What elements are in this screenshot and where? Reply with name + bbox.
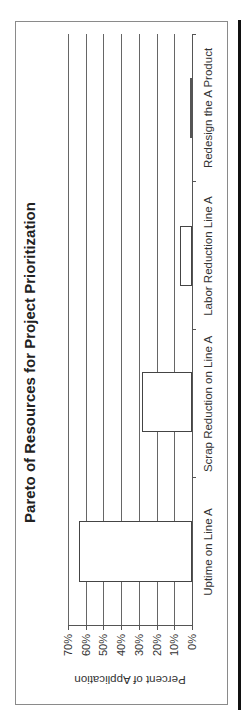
plot-area: 0% 10% 20% 30% 40% 50% 60% 70% Uptime on…: [68, 34, 192, 626]
x-category-label: Redesign the A Product: [202, 34, 214, 182]
bar-scrap-reduction-line-a: [142, 372, 192, 432]
bar-uptime-line-a: [79, 521, 192, 582]
x-category-label: Scrap Reduction on Line A: [202, 330, 214, 478]
gridline-70: [68, 34, 69, 626]
bar-redesign-a-product: [190, 78, 192, 138]
y-tick: [139, 626, 140, 630]
y-tick: [121, 626, 122, 630]
y-tick-label: 20%: [151, 634, 163, 674]
y-tick-label: 70%: [62, 634, 74, 674]
page-edge-rule: [238, 20, 241, 710]
rotated-chart-canvas: Pareto of Resources for Project Prioriti…: [0, 0, 244, 714]
x-category-tick: [192, 477, 196, 478]
x-category-tick: [192, 34, 196, 35]
y-tick: [103, 626, 104, 630]
y-tick-label: 50%: [97, 634, 109, 674]
y-axis-title: Percent of Application: [74, 674, 185, 686]
y-tick-label: 10%: [168, 634, 180, 674]
x-category-tick: [192, 329, 196, 330]
y-tick: [174, 626, 175, 630]
x-category-label: Labor Reduction Line A: [202, 182, 214, 330]
y-tick-label: 0%: [186, 634, 198, 674]
y-tick: [157, 626, 158, 630]
y-tick: [192, 626, 193, 630]
y-tick-label: 30%: [133, 634, 145, 674]
x-axis: [192, 34, 193, 626]
bar-labor-reduction-line-a: [180, 226, 192, 286]
y-tick: [68, 626, 69, 630]
chart-title: Pareto of Resources for Project Prioriti…: [21, 20, 38, 705]
y-tick-label: 60%: [80, 634, 92, 674]
x-category-tick: [192, 181, 196, 182]
y-tick: [86, 626, 87, 630]
y-tick-label: 40%: [115, 634, 127, 674]
x-category-label: Uptime on Line A: [202, 478, 214, 626]
